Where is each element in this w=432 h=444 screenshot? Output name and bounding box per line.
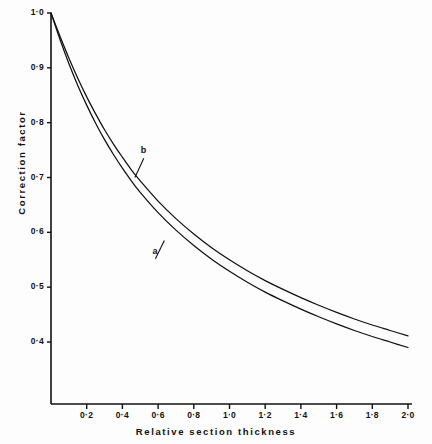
x-axis-tick-label: 1·8: [352, 410, 392, 420]
leader-line-b: [135, 158, 144, 177]
curve-label-a: a: [152, 246, 157, 256]
y-axis-title: Correction factor: [16, 88, 27, 238]
y-axis-tick-label: 1·0: [3, 7, 44, 17]
x-axis-tick-label: 0·4: [102, 410, 142, 420]
series-curve-a: [51, 13, 408, 347]
y-axis-tick-label: 0·5: [3, 281, 44, 291]
y-axis-tick-label: 0·7: [3, 172, 44, 182]
y-axis-tick-label: 0·6: [3, 226, 44, 236]
axis-lines: [51, 13, 412, 404]
y-axis-tick-label: 0·9: [3, 62, 44, 72]
chart-figure: Correction factor Relative section thick…: [0, 0, 432, 444]
x-axis-tick-label: 0·2: [67, 410, 107, 420]
plot-canvas: [0, 0, 432, 444]
y-axis-tick-label: 0·8: [3, 117, 44, 127]
x-axis-title: Relative section thickness: [0, 426, 432, 437]
x-axis-tick-label: 1·6: [317, 410, 357, 420]
x-axis-tick-label: 1·2: [245, 410, 285, 420]
data-series-group: [51, 13, 408, 347]
curve-label-b: b: [141, 145, 147, 155]
annotation-leader-lines: [135, 158, 164, 258]
y-axis-tick-label: 0·4: [3, 336, 44, 346]
x-axis-tick-label: 1·4: [281, 410, 321, 420]
x-axis-tick-label: 2·0: [388, 410, 428, 420]
series-curve-b: [51, 13, 408, 336]
x-axis-tick-label: 0·8: [174, 410, 214, 420]
x-axis-tick-label: 0·6: [138, 410, 178, 420]
x-axis-tick-label: 1·0: [210, 410, 250, 420]
